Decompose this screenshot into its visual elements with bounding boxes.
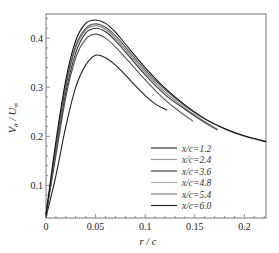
y-tick-label: 0.4 <box>31 33 44 44</box>
x-tick-label: 0.2 <box>238 221 251 232</box>
legend-label: x/c=5.4 <box>181 190 212 200</box>
y-axis-label: Vθ / U∞ <box>7 103 20 134</box>
x-tick-label: 0.1 <box>139 221 152 232</box>
legend-label: x/c=3.6 <box>181 167 212 177</box>
data-series <box>46 20 266 217</box>
x-tick-label: 0 <box>44 221 49 232</box>
axis-ticks <box>46 18 264 218</box>
series-line <box>46 24 266 215</box>
legend-label: x/c=6.0 <box>181 201 212 211</box>
legend-label: x/c=1.2 <box>181 144 212 154</box>
y-tick-label: 0.3 <box>31 82 44 93</box>
legend-label: x/c=4.8 <box>181 178 212 188</box>
x-tick-label: 0.05 <box>87 221 105 232</box>
series-line <box>46 34 193 215</box>
x-axis-label: r / c <box>140 236 157 247</box>
line-chart: 00.050.10.150.20.10.20.30.4 x/c=1.2x/c=2… <box>0 0 279 253</box>
legend-label: x/c=2.4 <box>181 155 212 165</box>
legend: x/c=1.2x/c=2.4x/c=3.6x/c=4.8x/c=5.4x/c=6… <box>151 144 212 212</box>
x-tick-label: 0.15 <box>186 221 204 232</box>
y-tick-label: 0.2 <box>31 131 44 142</box>
y-tick-label: 0.1 <box>31 180 44 191</box>
